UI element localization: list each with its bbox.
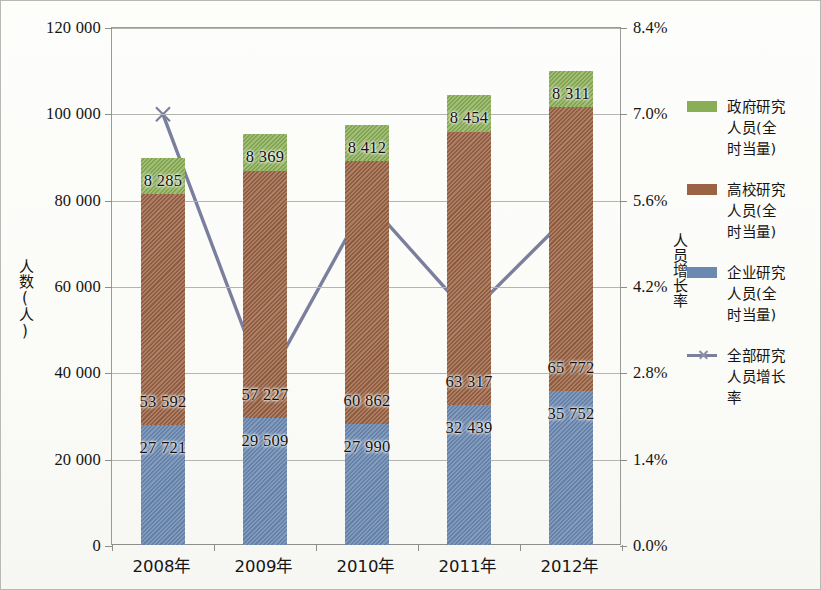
legend-label: 企业研究人员(全时当量)	[727, 263, 815, 326]
x-axis-category-label: 2012年	[541, 553, 600, 577]
bar-data-label: 60 862	[343, 391, 390, 411]
y-axis-right-tick-label: 0.0%	[633, 536, 703, 556]
y-axis-tick-mark	[105, 460, 112, 461]
x-axis-category-label: 2011年	[439, 553, 498, 577]
x-axis-category-label: 2008年	[133, 553, 192, 577]
x-axis-tick-mark	[316, 545, 317, 551]
bar-segment[interactable]	[549, 107, 593, 391]
bar-data-label: 32 439	[445, 418, 492, 438]
bar-data-label: 53 592	[139, 392, 186, 412]
y-axis-left-tick-label: 0	[3, 536, 101, 556]
bar-data-label: 35 752	[547, 404, 594, 424]
legend-item[interactable]: 企业研究人员(全时当量)	[687, 263, 815, 326]
x-axis-tick-mark	[418, 545, 419, 551]
y-axis-right-tick-mark	[620, 287, 627, 288]
bar-column[interactable]	[345, 27, 389, 545]
bar-data-label: 8 454	[450, 108, 489, 128]
bar-data-label: 57 227	[241, 385, 288, 405]
y-axis-left-tick-label: 40 000	[3, 363, 101, 383]
y-axis-right-tick-mark	[620, 373, 627, 374]
bar-column[interactable]	[447, 27, 491, 545]
y-axis-left-tick-label: 120 000	[3, 18, 101, 38]
chart-figure: 人数(人) 人员增长率 020 00040 00060 00080 000100…	[0, 0, 821, 590]
bar-data-label: 65 772	[547, 358, 594, 378]
bar-data-label: 27 721	[139, 438, 186, 458]
y-axis-tick-mark	[105, 201, 112, 202]
y-axis-left-title: 人数(人)	[15, 259, 36, 340]
bar-data-label: 8 412	[348, 138, 387, 158]
legend-label: 政府研究人员(全时当量)	[727, 97, 815, 160]
bar-data-label: 8 369	[246, 147, 285, 167]
legend-swatch-icon	[687, 101, 717, 112]
x-axis-tick-mark	[112, 545, 113, 551]
legend-label: 全部研究人员增长率	[727, 346, 815, 409]
y-axis-right-tick-mark	[620, 114, 627, 115]
legend-item[interactable]: 高校研究人员(全时当量)	[687, 180, 815, 243]
x-axis-category-label: 2010年	[337, 553, 396, 577]
y-axis-right-tick-mark	[620, 201, 627, 202]
bar-data-label: 8 311	[552, 84, 590, 104]
y-axis-right-tick-label: 1.4%	[633, 450, 703, 470]
y-axis-left-tick-label: 60 000	[3, 277, 101, 297]
y-axis-tick-mark	[105, 28, 112, 29]
bar-data-label: 63 317	[445, 372, 492, 392]
plot-area: 020 00040 00060 00080 000100 000120 0000…	[111, 27, 621, 545]
y-axis-tick-mark	[105, 114, 112, 115]
y-axis-right-tick-mark	[620, 28, 627, 29]
bar-data-label: 27 990	[343, 437, 390, 457]
bar-column[interactable]	[549, 27, 593, 545]
x-axis-category-label: 2009年	[235, 553, 294, 577]
y-axis-right-tick-mark	[620, 460, 627, 461]
y-axis-tick-mark	[105, 546, 112, 547]
y-axis-right-tick-label: 8.4%	[633, 18, 703, 38]
legend-item[interactable]: 全部研究人员增长率	[687, 346, 815, 409]
bar-segment[interactable]	[345, 161, 389, 424]
bar-column[interactable]	[141, 27, 185, 545]
bar-segment[interactable]	[243, 171, 287, 418]
y-axis-tick-mark	[105, 287, 112, 288]
legend-x-marker-icon	[698, 349, 709, 360]
bar-data-label: 8 285	[144, 171, 183, 191]
bar-segment[interactable]	[447, 132, 491, 405]
y-axis-tick-mark	[105, 373, 112, 374]
legend-swatch-icon	[687, 267, 717, 278]
bar-column[interactable]	[243, 27, 287, 545]
bar-segment[interactable]	[141, 194, 185, 425]
y-axis-left-tick-label: 20 000	[3, 450, 101, 470]
bar-data-label: 29 509	[241, 431, 288, 451]
y-axis-left-tick-label: 80 000	[3, 191, 101, 211]
legend-label: 高校研究人员(全时当量)	[727, 180, 815, 243]
x-axis-tick-mark	[622, 545, 623, 551]
x-axis-tick-mark	[214, 545, 215, 551]
x-axis-tick-mark	[520, 545, 521, 551]
chart-legend: 政府研究人员(全时当量)高校研究人员(全时当量)企业研究人员(全时当量)全部研究…	[687, 97, 815, 429]
legend-swatch-icon	[687, 184, 717, 195]
y-axis-left-tick-label: 100 000	[3, 104, 101, 124]
legend-item[interactable]: 政府研究人员(全时当量)	[687, 97, 815, 160]
